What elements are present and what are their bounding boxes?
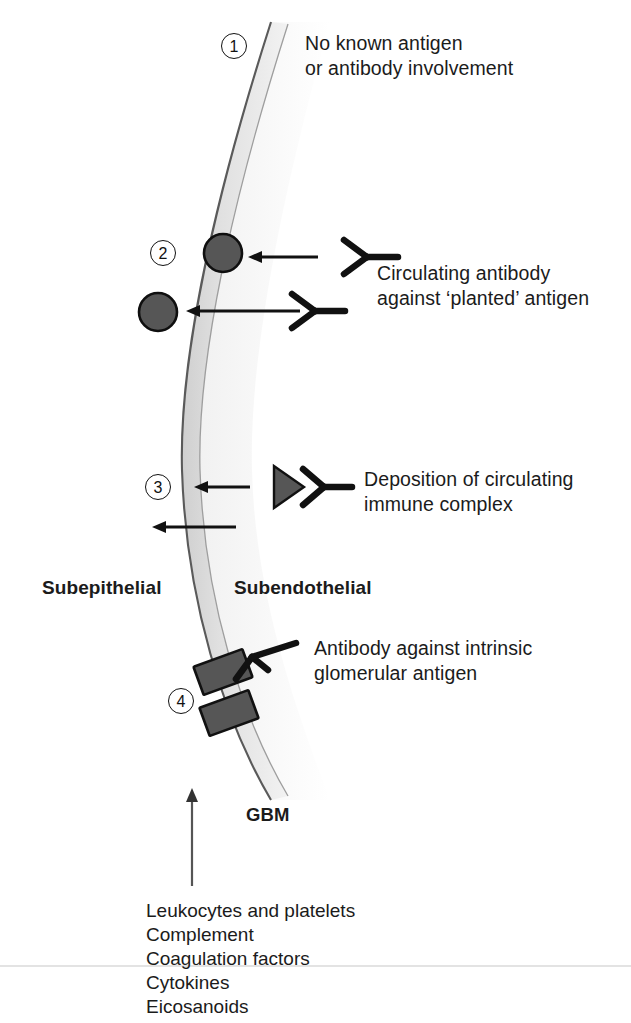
- annotation-1-line-1: No known antigen: [305, 31, 463, 56]
- annotation-1-line-2: or antibody involvement: [305, 56, 513, 81]
- mediator-item-leukocytes: Leukocytes and platelets: [146, 899, 355, 924]
- planted-antigen-particle-lower: [139, 293, 177, 331]
- annotation-2-line-1: Circulating antibody: [377, 261, 550, 286]
- annotation-4-line-2: glomerular antigen: [314, 661, 477, 686]
- zone-label-subendothelial: Subendothelial: [234, 575, 372, 600]
- planted-antigen-particle-upper: [204, 234, 242, 272]
- zone-label-gbm: GBM: [246, 802, 289, 827]
- immune-complex-antibody-icon: [303, 469, 352, 505]
- step-marker-2: 2: [150, 240, 176, 266]
- zone-label-subepithelial: Subepithelial: [42, 575, 162, 600]
- step-marker-4: 4: [168, 688, 194, 714]
- step-marker-3: 3: [145, 474, 171, 500]
- diagram-page: 1 2 3 4 No known antigen or antibody inv…: [0, 0, 631, 1023]
- immune-complex-antigen-triangle-icon: [274, 466, 304, 508]
- arrow-planted-antigen-upper: [248, 251, 318, 263]
- step-marker-1: 1: [221, 33, 247, 59]
- annotation-3-line-1: Deposition of circulating: [364, 467, 574, 492]
- mediator-item-coagulation-factors: Coagulation factors: [146, 947, 310, 972]
- glomerular-injury-diagram: [0, 0, 631, 1023]
- annotation-3-line-2: immune complex: [364, 492, 513, 517]
- mediator-item-cytokines: Cytokines: [146, 971, 229, 996]
- annotation-4-line-1: Antibody against intrinsic: [314, 636, 532, 661]
- mediator-item-eicosanoids: Eicosanoids: [146, 995, 248, 1020]
- mediator-item-complement: Complement: [146, 923, 254, 948]
- mediators-arrow: [186, 788, 198, 886]
- annotation-2-line-2: against ‘planted’ antigen: [377, 286, 589, 311]
